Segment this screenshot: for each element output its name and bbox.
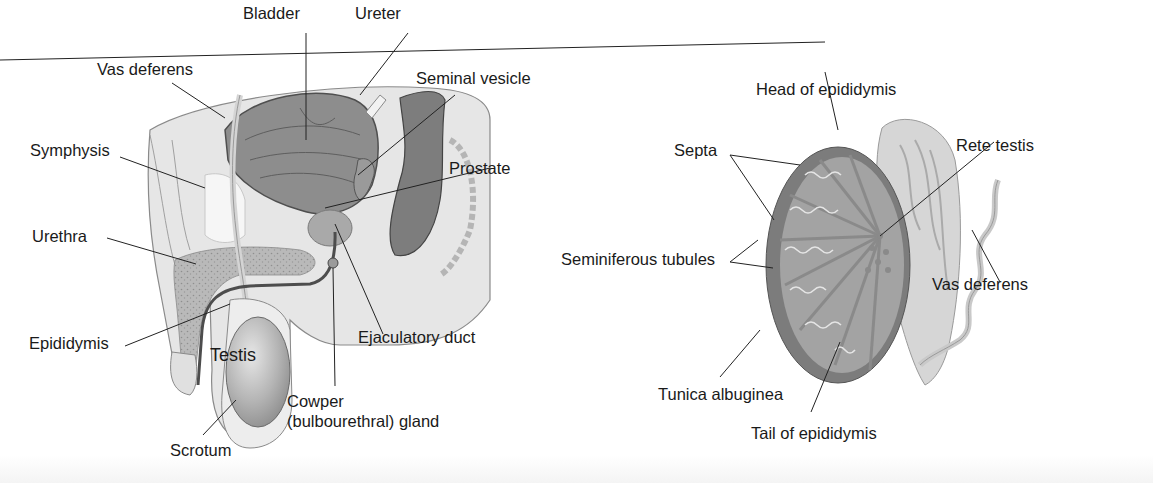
anatomy-figure: Bladder Ureter Vas deferens Seminal vesi… <box>0 0 1153 483</box>
label-rete-testis: Rete testis <box>956 136 1034 155</box>
label-epididymis: Epididymis <box>29 334 109 353</box>
label-cowper-line1: Cowper <box>287 392 344 411</box>
glans-shape <box>171 352 197 395</box>
label-vas-deferens: Vas deferens <box>97 60 193 79</box>
cowper-gland-shape <box>328 258 338 268</box>
testis-section <box>766 119 998 385</box>
label-testis: Testis <box>210 346 256 365</box>
label-cowper-line2: (bulbourethral) gland <box>287 412 439 431</box>
label-ejaculatory-duct: Ejaculatory duct <box>358 328 475 347</box>
label-bladder: Bladder <box>243 4 300 23</box>
label-symphysis: Symphysis <box>30 141 110 160</box>
label-urethra: Urethra <box>32 227 87 246</box>
label-seminiferous-tubules: Seminiferous tubules <box>561 250 715 269</box>
label-vas-deferens-right: Vas deferens <box>932 275 1028 294</box>
label-prostate: Prostate <box>449 159 510 178</box>
label-tail-of-epididymis: Tail of epididymis <box>751 424 877 443</box>
label-septa: Septa <box>674 141 717 160</box>
label-ureter: Ureter <box>355 4 401 23</box>
prostate-shape <box>308 210 352 246</box>
testis-shape <box>226 317 290 427</box>
label-tunica-albuginea: Tunica albuginea <box>658 385 783 404</box>
label-scrotum: Scrotum <box>170 441 231 460</box>
label-head-of-epididymis: Head of epididymis <box>756 80 896 99</box>
label-seminal-vesicle: Seminal vesicle <box>416 69 531 88</box>
